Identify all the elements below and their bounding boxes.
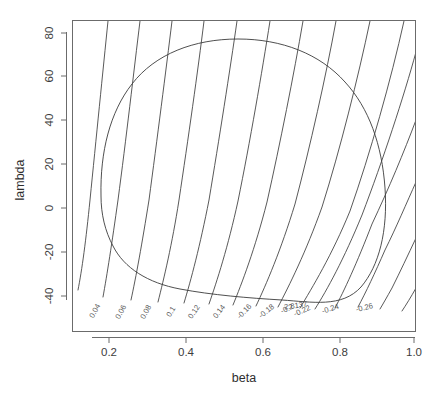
contour-curve-0.08 (131, 21, 172, 300)
y-tick-label--20: -20 (43, 244, 55, 261)
contour-curve-0.1 (158, 21, 204, 302)
y-tick-label-20: 20 (43, 158, 55, 171)
y-tick-label-0: 0 (43, 205, 55, 211)
x-tick-label-0: 0.2 (101, 346, 117, 358)
plot-frame (73, 21, 416, 332)
x-tick-label-2: 0.6 (255, 346, 271, 358)
contour-curve-0.12 (184, 21, 237, 303)
contour-curve--0.26 (335, 120, 416, 308)
y-tick-label--40: -40 (43, 288, 55, 305)
contour-plot-figure: 0.2 0.4 0.6 0.8 1.0 -40 -20 0 20 40 60 8… (0, 0, 435, 396)
contour-label-7: -0.18 (257, 302, 276, 320)
contour-curve-0.06 (103, 21, 140, 297)
contour-label-0: 0.04 (87, 302, 102, 319)
y-tick-label-80: 80 (43, 27, 55, 40)
x-tick-label-4: 1.0 (406, 346, 422, 358)
contour-curve--0.16 (233, 21, 303, 305)
contour-label-2: 0.08 (138, 303, 153, 320)
y-tick-label-60: 60 (43, 70, 55, 83)
contour-curve-0.14 (209, 21, 270, 304)
plot-canvas: 0.2 0.4 0.6 0.8 1.0 -40 -20 0 20 40 60 8… (0, 0, 435, 396)
contour-label-6: -0.16 (235, 302, 254, 321)
y-axis-title: lambda (13, 159, 27, 200)
contour-label-5: 0.14 (211, 303, 227, 320)
contour-label-group: 0.04 0.06 0.08 0.1 0.12 0.14 -0.16 -0.18… (87, 299, 374, 320)
contour-curve--0.28 (358, 182, 416, 307)
y-axis: -40 -20 0 20 40 60 80 (43, 27, 67, 305)
x-tick-label-1: 0.4 (178, 346, 195, 358)
x-axis: 0.2 0.4 0.6 0.8 1.0 (92, 338, 422, 359)
contour-curve-outer-lower-2 (402, 288, 416, 311)
contour-label-11: -0.24 (321, 302, 340, 316)
closed-contour-region (101, 39, 386, 302)
contour-label-12: -0.26 (355, 301, 374, 314)
contour-curve--0.22 (300, 21, 404, 308)
contour-label-1: 0.06 (113, 303, 128, 320)
contour-label-3: 0.1 (164, 305, 177, 319)
contour-label-4: 0.12 (186, 303, 202, 320)
y-tick-label-40: 40 (43, 114, 55, 127)
contour-line-group (78, 21, 416, 311)
x-axis-title: beta (232, 371, 256, 385)
x-tick-label-3: 0.8 (332, 346, 348, 358)
